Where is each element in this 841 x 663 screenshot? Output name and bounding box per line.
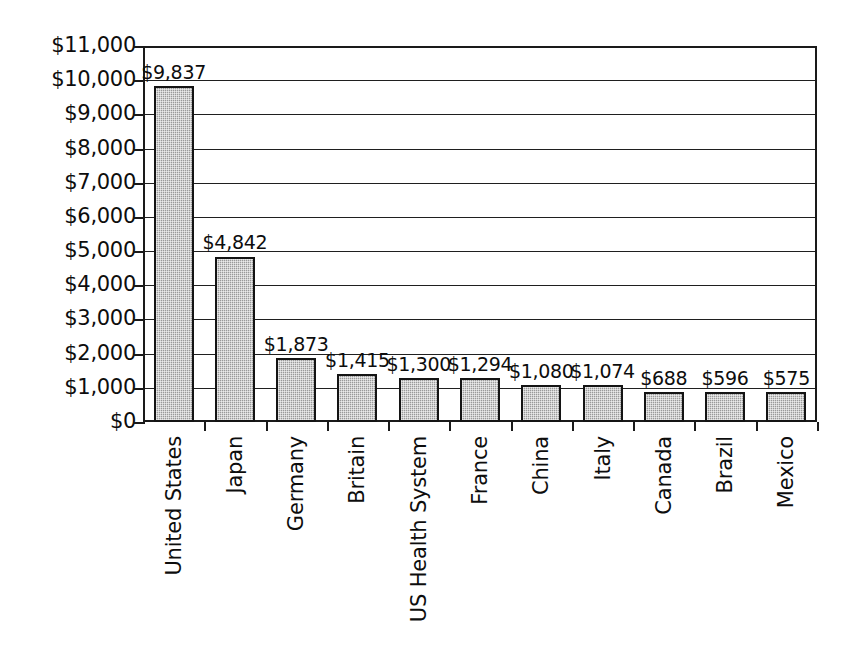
bar-value-label: $1,415	[325, 351, 390, 370]
x-axis-label-slot: China	[511, 432, 572, 657]
bar[interactable]	[766, 392, 806, 422]
x-axis-ticks	[143, 422, 817, 432]
x-axis-category-label: US Health System	[408, 436, 429, 622]
x-axis-label-slot: Britain	[327, 432, 388, 657]
y-axis-tick-label: $2,000	[16, 343, 136, 364]
bar[interactable]	[215, 257, 255, 423]
x-axis-tick-mark	[572, 422, 574, 431]
x-axis-label-slot: US Health System	[388, 432, 449, 657]
x-axis-category-label: Mexico	[776, 436, 797, 508]
y-axis-tick-label: $8,000	[16, 138, 136, 159]
bar-slot	[266, 46, 327, 422]
bar-slot	[694, 46, 755, 422]
x-axis-tick-mark	[266, 422, 268, 431]
x-axis-category-label: Italy	[592, 436, 613, 481]
bar-slot	[633, 46, 694, 422]
x-axis-tick-mark	[388, 422, 390, 431]
x-axis-tick-mark	[694, 422, 696, 431]
bar[interactable]	[399, 378, 439, 422]
x-axis-tick-mark	[204, 422, 206, 431]
x-axis-category-label: Britain	[347, 436, 368, 504]
x-axis-tick-mark	[633, 422, 635, 431]
bar[interactable]	[705, 392, 745, 422]
bar[interactable]	[583, 385, 623, 422]
bar[interactable]	[154, 86, 194, 422]
x-axis-label-slot: United States	[143, 432, 204, 657]
bar-value-label: $688	[640, 369, 687, 388]
y-axis-tick-label: $10,000	[16, 69, 136, 90]
bar[interactable]	[644, 392, 684, 422]
x-axis-label-slot: Germany	[266, 432, 327, 657]
y-axis-tick-label: $0	[16, 411, 136, 432]
bar-value-label: $596	[702, 369, 749, 388]
x-axis-category-label: Germany	[286, 436, 307, 531]
bar-value-label: $1,294	[448, 355, 513, 374]
x-axis-tick-mark	[817, 422, 819, 431]
bar-value-label: $1,080	[509, 362, 574, 381]
y-axis-tick-label: $1,000	[16, 377, 136, 398]
x-axis-label-slot: Mexico	[756, 432, 817, 657]
x-axis-category-label: Japan	[224, 436, 245, 494]
x-axis-tick-mark	[449, 422, 451, 431]
y-axis-tick-label: $4,000	[16, 274, 136, 295]
x-axis-label-slot: Japan	[204, 432, 265, 657]
x-axis-category-label: France	[469, 436, 490, 505]
y-axis-tick-label: $11,000	[16, 35, 136, 56]
x-axis-category-label: Brazil	[715, 436, 736, 493]
bar-slot	[756, 46, 817, 422]
bar[interactable]	[460, 378, 500, 422]
x-axis-category-label: United States	[163, 436, 184, 576]
bar[interactable]	[337, 374, 377, 422]
x-axis-label-slot: Italy	[572, 432, 633, 657]
x-axis-category-label: China	[531, 436, 552, 495]
x-axis-category-labels: United StatesJapanGermanyBritainUS Healt…	[143, 432, 817, 657]
bar[interactable]	[276, 358, 316, 422]
bar-value-label: $4,842	[203, 233, 268, 252]
y-axis-tick-label: $7,000	[16, 172, 136, 193]
bar-value-label: $9,837	[141, 63, 206, 82]
bar-value-label: $1,300	[386, 355, 451, 374]
y-axis-tick-label: $6,000	[16, 206, 136, 227]
x-axis-tick-mark	[756, 422, 758, 431]
x-axis-category-label: Canada	[653, 436, 674, 515]
y-axis-tick-label: $3,000	[16, 308, 136, 329]
y-axis-tick-label: $9,000	[16, 103, 136, 124]
x-axis-label-slot: France	[449, 432, 510, 657]
bar-value-label: $575	[763, 369, 810, 388]
x-axis-tick-mark	[327, 422, 329, 431]
y-axis-tick-labels: $11,000$10,000$9,000$8,000$7,000$6,000$5…	[10, 0, 136, 663]
bar[interactable]	[521, 385, 561, 422]
bar-slot	[143, 46, 204, 422]
x-axis-label-slot: Canada	[633, 432, 694, 657]
y-axis-tick-label: $5,000	[16, 240, 136, 261]
bar-chart: In Billions $11,000$10,000$9,000$8,000$7…	[0, 0, 841, 663]
x-axis-tick-mark	[511, 422, 513, 431]
bar-value-label: $1,873	[264, 335, 329, 354]
x-axis-label-slot: Brazil	[694, 432, 755, 657]
bar-value-label: $1,074	[570, 362, 635, 381]
bar-series: $9,837$4,842$1,873$1,415$1,300$1,294$1,0…	[143, 46, 817, 422]
